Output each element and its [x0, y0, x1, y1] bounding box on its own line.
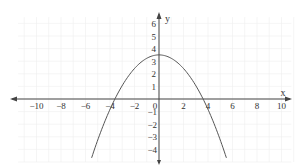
- y-tick-label: 5: [152, 32, 157, 42]
- x-tick-label: −8: [56, 101, 66, 111]
- y-tick-label: 2: [152, 69, 157, 79]
- y-tick-label: −2: [147, 120, 157, 130]
- y-axis-bottom-arrow-icon: [157, 160, 161, 165]
- y-tick-label: 3: [152, 57, 157, 67]
- x-axis-right-arrow-icon: [285, 97, 292, 102]
- y-tick-label: 6: [152, 19, 157, 29]
- x-axis-left-arrow-icon: [10, 97, 17, 102]
- x-tick-label: −10: [29, 101, 44, 111]
- y-tick-label: −3: [147, 132, 157, 142]
- x-tick-label: 8: [255, 101, 260, 111]
- x-tick-label: −6: [81, 101, 91, 111]
- x-tick-label: 6: [230, 101, 235, 111]
- x-tick-label: −2: [130, 101, 140, 111]
- y-tick-label: 1: [152, 82, 157, 92]
- parabola-plot: xy−10−8−6−4−20246810123456−1−2−3−4: [0, 0, 300, 168]
- chart-container: xy−10−8−6−4−20246810123456−1−2−3−4: [0, 0, 300, 168]
- x-tick-label: 10: [277, 101, 287, 111]
- x-tick-label: 2: [181, 101, 186, 111]
- x-tick-label: −4: [105, 101, 115, 111]
- x-tick-label: 4: [206, 101, 211, 111]
- x-axis-label: x: [281, 87, 286, 98]
- y-tick-label: 4: [152, 44, 157, 54]
- y-axis-label: y: [165, 13, 170, 24]
- tick-labels: xy−10−8−6−4−20246810123456−1−2−3−4: [29, 13, 286, 155]
- y-axis-top-arrow-icon: [157, 12, 162, 19]
- y-tick-label: −4: [147, 145, 157, 155]
- y-tick-label: −1: [147, 107, 157, 117]
